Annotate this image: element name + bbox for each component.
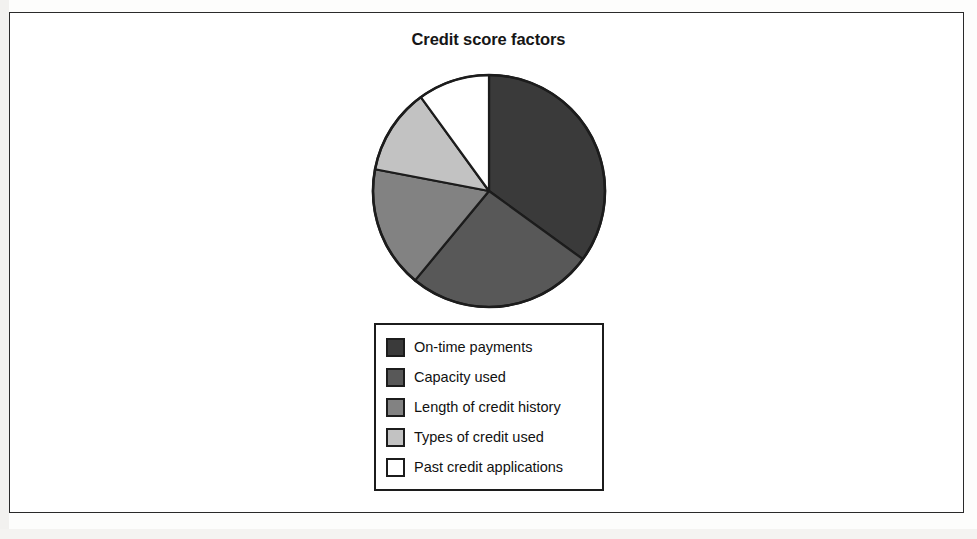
legend-item-label: Past credit applications xyxy=(414,460,563,475)
legend-swatch-icon xyxy=(386,398,405,417)
legend-item-label: Capacity used xyxy=(414,370,506,385)
pie-chart-svg xyxy=(371,73,607,309)
legend-swatch-icon xyxy=(386,338,405,357)
legend-item[interactable]: On-time payments xyxy=(386,332,602,362)
scan-edge-left xyxy=(0,0,9,539)
legend-swatch-icon xyxy=(386,458,405,477)
legend-swatch-icon xyxy=(386,368,405,387)
legend-item-label: Length of credit history xyxy=(414,400,561,415)
pie-chart xyxy=(371,73,607,309)
figure-page: Credit score factors On-time payments Ca… xyxy=(0,0,977,539)
legend-item[interactable]: Length of credit history xyxy=(386,392,602,422)
legend-swatch-icon xyxy=(386,428,405,447)
legend-item[interactable]: Past credit applications xyxy=(386,452,602,482)
chart-title: Credit score factors xyxy=(0,30,977,49)
legend-item[interactable]: Capacity used xyxy=(386,362,602,392)
chart-legend: On-time payments Capacity used Length of… xyxy=(374,323,604,491)
legend-item[interactable]: Types of credit used xyxy=(386,422,602,452)
legend-item-label: Types of credit used xyxy=(414,430,544,445)
scan-edge-bottom xyxy=(0,529,977,539)
legend-item-label: On-time payments xyxy=(414,340,532,355)
